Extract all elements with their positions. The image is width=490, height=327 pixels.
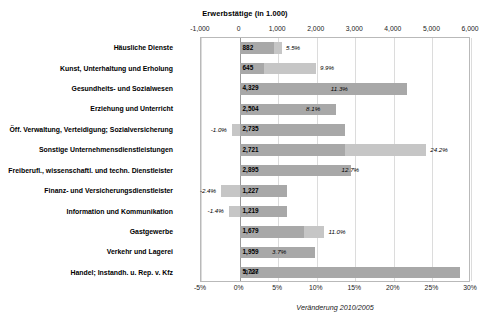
bar-value-label: 2,895	[243, 166, 259, 173]
axis-tick-label: 6,000	[440, 25, 490, 32]
bar-percent-change	[229, 206, 240, 218]
chart-row: Freiberufl., wissenschaftl. und techn. D…	[201, 161, 469, 181]
percent-change-label: -1.0%	[211, 126, 227, 133]
bar-value-label: 1,219	[243, 207, 259, 214]
chart-row: Gastgewerbe1,67911.0%	[201, 222, 469, 242]
chart-bottom-axis-title: Veränderung 2010/2005	[200, 303, 470, 312]
plot-area: Häusliche Dienste8825.5%Kunst, Unterhalt…	[200, 37, 470, 282]
percent-change-label: 11.0%	[328, 228, 345, 235]
chart-row: Information und Kommunikation1,219-1.4%	[201, 201, 469, 221]
percent-change-label: 24.2%	[430, 146, 448, 153]
category-label: Handel; Instandh. u. Rep. v. Kfz	[0, 269, 173, 276]
bottom-axis-ticks: -5%0%5%10%15%20%25%30%	[200, 284, 470, 296]
chart-row: Öff. Verwaltung, Verteidigung; Sozialver…	[201, 120, 469, 140]
percent-change-label: 0.1%	[244, 268, 258, 275]
bar-value-label: 1,679	[243, 227, 259, 234]
bar-employed-absolute	[240, 267, 461, 279]
chart-row: Erziehung und Unterricht2,5048.1%	[201, 99, 469, 119]
top-axis-ticks: -1,00001,0002,0003,0004,0005,0006,000	[200, 25, 470, 37]
percent-change-label: 12.7%	[342, 166, 360, 173]
chart-top-axis-title: Erwerbstätige (in 1.000)	[0, 9, 490, 18]
category-label: Finanz- und Versicherungsdienstleister	[0, 187, 173, 194]
category-label: Gastgewerbe	[0, 228, 173, 235]
category-label: Öff. Verwaltung, Verteidigung; Sozialver…	[0, 126, 173, 133]
chart-container: Erwerbstätige (in 1.000) -1,00001,0002,0…	[0, 0, 490, 327]
bar-employed-absolute	[240, 83, 407, 95]
category-label: Verkehr und Lagerei	[0, 248, 173, 255]
percent-change-label: 9.9%	[320, 64, 334, 71]
chart-row: Handel; Instandh. u. Rep. v. Kfz5,7270.1…	[201, 263, 469, 283]
bar-value-label: 2,504	[243, 105, 259, 112]
percent-change-label: -2.4%	[200, 187, 216, 194]
axis-tick-label: 30%	[440, 284, 490, 291]
bar-value-label: 4,329	[243, 84, 259, 91]
bar-percent-change	[221, 185, 240, 197]
chart-row: Finanz- und Versicherungsdienstleister1,…	[201, 181, 469, 201]
category-label: Information und Kommunikation	[0, 208, 173, 215]
percent-change-label: 5.5%	[286, 44, 300, 51]
percent-change-label: 3.7%	[272, 248, 286, 255]
chart-row: Verkehr und Lagerei1,9593.7%	[201, 242, 469, 262]
chart-row: Gesundheits- und Sozialwesen4,32911.3%	[201, 79, 469, 99]
category-label: Sonstige Unternehmensdienstleistungen	[0, 146, 173, 153]
bar-percent-change	[232, 124, 240, 136]
percent-change-label: -1.4%	[208, 207, 224, 214]
chart-row: Häusliche Dienste8825.5%	[201, 38, 469, 58]
bar-value-label: 645	[243, 64, 254, 71]
percent-change-label: 11.3%	[331, 85, 348, 92]
bar-value-label: 882	[243, 44, 254, 51]
bar-value-label: 1,959	[243, 248, 259, 255]
category-label: Häusliche Dienste	[0, 44, 173, 51]
category-label: Erziehung und Unterricht	[0, 105, 173, 112]
category-label: Gesundheits- und Sozialwesen	[0, 85, 173, 92]
bar-value-label: 2,721	[243, 146, 259, 153]
gridline	[471, 38, 472, 281]
bar-value-label: 1,227	[243, 187, 259, 194]
category-label: Freiberufl., wissenschaftl. und techn. D…	[0, 167, 173, 174]
category-label: Kunst, Unterhaltung und Erholung	[0, 65, 173, 72]
chart-row: Kunst, Unterhaltung und Erholung6459.9%	[201, 58, 469, 78]
percent-change-label: 8.1%	[306, 105, 320, 112]
chart-row: Sonstige Unternehmensdienstleistungen2,7…	[201, 140, 469, 160]
bar-value-label: 2,735	[243, 125, 259, 132]
